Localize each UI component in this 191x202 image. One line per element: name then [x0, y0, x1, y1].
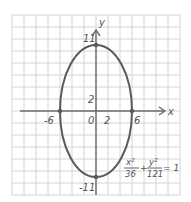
x-axis-label: x: [167, 106, 174, 117]
x-tick-label: 2: [104, 115, 110, 126]
equation-y-denominator: 121: [147, 169, 163, 179]
origin-label: 0: [88, 115, 94, 126]
equation: x² 36 + y² 121 = 1: [124, 157, 179, 179]
vertex-label-right: 6: [134, 115, 140, 126]
equation-equals: = 1: [163, 163, 179, 173]
ellipse-graph: y x 11 -11 -6 6 0 2 2 x² 36 + y² 121 = 1: [0, 0, 191, 202]
y-tick-label: 2: [88, 94, 94, 105]
vertex-label-left: -6: [44, 115, 54, 126]
equation-y-numerator: y²: [148, 157, 158, 167]
y-axis-label: y: [98, 17, 106, 28]
vertex-right: [130, 109, 134, 113]
vertex-bottom: [94, 175, 98, 179]
equation-x-denominator: 36: [125, 169, 136, 179]
vertex-label-bottom: -11: [79, 182, 95, 193]
equation-x-numerator: x²: [125, 157, 135, 167]
vertex-label-top: 11: [83, 33, 96, 44]
vertex-left: [58, 109, 62, 113]
